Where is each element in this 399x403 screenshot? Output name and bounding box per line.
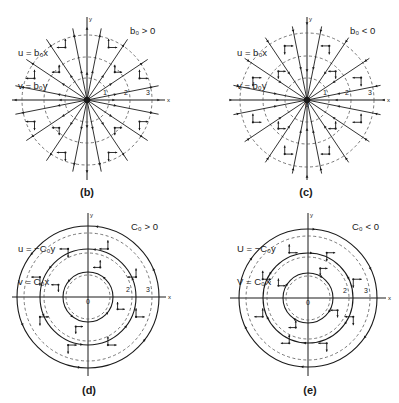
point-marker <box>116 308 118 310</box>
ring-label: 2 <box>343 287 347 294</box>
arrowhead-icon <box>135 308 137 310</box>
arrowhead-icon <box>277 279 279 281</box>
arrowhead-icon <box>321 45 323 47</box>
arrowhead-icon <box>333 252 335 254</box>
arrowhead-icon <box>353 77 355 79</box>
y-axis-label: y <box>310 212 313 218</box>
x-axis-label: x <box>388 295 391 301</box>
arrowhead-icon <box>284 52 286 54</box>
arrowhead-icon <box>382 99 385 102</box>
arrowhead-icon <box>116 302 118 304</box>
arrowhead-icon <box>284 128 286 130</box>
point-marker <box>284 153 286 155</box>
y-axis-label: y <box>89 16 92 22</box>
arrowhead-icon <box>64 159 66 161</box>
arrowhead-icon <box>328 146 330 148</box>
origin-label: 0 <box>306 299 310 306</box>
arrowhead-icon <box>86 27 89 30</box>
ring-label: 1 <box>323 89 327 96</box>
point-marker <box>67 344 69 346</box>
point-marker <box>277 128 279 130</box>
arrowhead-icon <box>39 323 41 325</box>
ring-label: 3 <box>146 286 150 293</box>
arrowhead-icon <box>360 114 362 116</box>
arrowhead-icon <box>291 45 293 47</box>
arrowhead-icon <box>86 125 89 128</box>
point-marker <box>108 46 110 48</box>
panel-e-label: (e) <box>303 384 316 396</box>
panel-e-condition: C₀ < 0 <box>352 221 379 232</box>
x-axis-label: x <box>387 97 390 103</box>
point-marker <box>33 121 35 123</box>
ring-label: 3 <box>146 89 150 96</box>
arrowhead-icon <box>58 133 60 135</box>
ring-label: 2 <box>126 286 130 293</box>
flow-field-diagrams: xy123xy1230xy230xy230 <box>0 0 399 403</box>
point-marker <box>328 153 330 155</box>
arrowhead-icon <box>57 290 59 292</box>
arrowhead-icon <box>328 128 330 130</box>
arrowhead-icon <box>276 99 279 102</box>
point-marker <box>336 309 338 311</box>
panel-c-condition: b₀ < 0 <box>350 25 375 36</box>
point-marker <box>39 316 41 318</box>
arrowhead-icon <box>326 350 328 352</box>
point-marker <box>284 45 286 47</box>
point-marker <box>262 316 264 318</box>
panel-b-eq-u: u = b₀x <box>18 47 48 58</box>
point-marker <box>114 127 116 129</box>
panel-c-label: (c) <box>299 186 312 198</box>
panel-b-equations: u = b₀x v = b₀y <box>18 25 48 113</box>
point-marker <box>360 77 362 79</box>
arrowhead-icon <box>67 352 69 354</box>
point-marker <box>67 248 69 250</box>
arrowhead-icon <box>229 99 232 102</box>
point-marker <box>319 267 321 269</box>
arrowhead-icon <box>284 70 286 72</box>
point-marker <box>326 342 328 344</box>
arrowhead-icon <box>58 65 60 67</box>
arrowhead-icon <box>328 70 330 72</box>
arrowhead-icon <box>108 39 110 41</box>
arrowhead-icon <box>335 99 338 102</box>
arrowhead-icon <box>335 77 337 79</box>
arrowhead-icon <box>138 70 140 72</box>
arrowhead-icon <box>52 71 54 73</box>
point-marker <box>135 276 137 278</box>
arrowhead-icon <box>328 52 330 54</box>
arrowhead-icon <box>335 121 337 123</box>
arrowhead-icon <box>33 128 35 130</box>
arrowhead-icon <box>321 153 323 155</box>
arrowhead-icon <box>86 72 89 75</box>
ring-label: 3 <box>368 89 372 96</box>
arrowhead-icon <box>284 146 286 148</box>
arrowhead-icon <box>81 325 83 327</box>
arrowhead-icon <box>115 151 117 153</box>
point-marker <box>335 128 337 130</box>
arrowhead-icon <box>120 71 122 73</box>
arrowhead-icon <box>57 151 59 153</box>
arrowhead-icon <box>107 336 109 338</box>
arrowhead-icon <box>352 286 354 288</box>
arrowhead-icon <box>352 323 354 325</box>
panel-b-label: (b) <box>80 186 94 198</box>
arrowhead-icon <box>114 65 116 67</box>
point-marker <box>138 121 140 123</box>
panel-d-eq-v: v = C₀x <box>18 276 55 287</box>
arrowhead-icon <box>360 84 362 86</box>
arrowhead-icon <box>259 121 261 123</box>
point-marker <box>360 121 362 123</box>
panel-b-eq-v: v = b₀y <box>18 80 48 91</box>
arrowhead-icon <box>75 332 77 334</box>
arrowhead-icon <box>26 121 28 123</box>
arrowhead-icon <box>99 260 101 262</box>
arrowhead-icon <box>99 248 101 250</box>
x-axis-label: x <box>168 294 171 300</box>
point-marker <box>75 325 77 327</box>
arrowhead-icon <box>306 69 309 72</box>
y-axis-label: y <box>309 16 312 22</box>
arrowhead-icon <box>120 127 122 129</box>
point-marker <box>64 46 66 48</box>
arrowhead-icon <box>318 342 320 344</box>
arrowhead-icon <box>291 153 293 155</box>
